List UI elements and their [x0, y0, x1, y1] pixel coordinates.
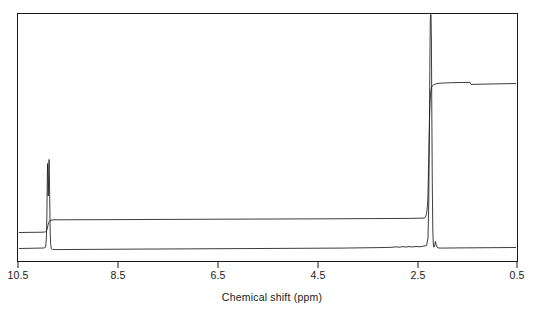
x-tick-label-0-5: 0.5: [509, 269, 524, 281]
x-axis-title: Chemical shift (ppm): [0, 291, 544, 303]
x-tick-label-6-5: 6.5: [210, 269, 225, 281]
x-tick-label-4-5: 4.5: [310, 269, 325, 281]
x-tick-label-10-5: 10.5: [7, 269, 28, 281]
tick-label-group: 10.5 8.5 6.5 4.5 2.5 0.5: [0, 0, 544, 321]
x-tick-label-2-5: 2.5: [410, 269, 425, 281]
nmr-spectrum-figure: 10.5 8.5 6.5 4.5 2.5 0.5 Chemical shift …: [0, 0, 544, 321]
x-tick-label-8-5: 8.5: [110, 269, 125, 281]
